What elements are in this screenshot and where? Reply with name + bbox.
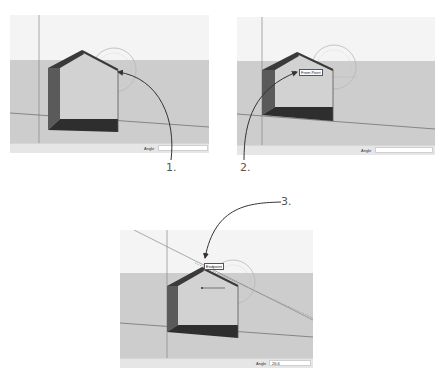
measurements-label: Angle — [144, 146, 154, 151]
step-number-2: 2. — [240, 161, 251, 174]
inference-tooltip: Endpoint — [204, 263, 224, 270]
viewport-step-2[interactable]: From Point Angle — [237, 17, 435, 155]
house-model-scene — [237, 17, 435, 155]
measurements-input[interactable]: 26.6 — [269, 360, 311, 366]
status-bar: Angle 26.6 — [120, 358, 313, 368]
from-point-marker — [294, 71, 296, 73]
measurements-label: Angle — [256, 361, 266, 366]
house-model-scene — [120, 230, 313, 368]
vertex-marker — [201, 287, 203, 289]
step-number-1: 1. — [166, 161, 177, 174]
measurements-input[interactable] — [375, 147, 433, 153]
measurements-label: Angle — [361, 148, 371, 153]
viewport-step-1[interactable]: Angle — [10, 15, 209, 153]
status-bar: Angle — [10, 143, 209, 153]
house-model-scene — [10, 15, 209, 153]
viewport-step-3[interactable]: Endpoint Angle 26.6 — [120, 230, 313, 368]
status-bar: Angle — [237, 145, 435, 155]
step-number-3: 3. — [281, 195, 292, 208]
measurements-input[interactable] — [158, 145, 208, 151]
inference-tooltip: From Point — [299, 69, 323, 76]
